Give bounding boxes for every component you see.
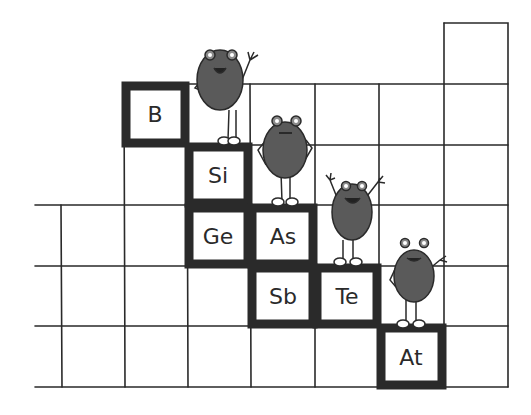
svg-text:Si: Si	[208, 163, 228, 188]
svg-text:B: B	[147, 102, 162, 127]
periodic-table-illustration: B Si Ge As Sb Te At	[0, 0, 531, 415]
svg-text:Sb: Sb	[269, 284, 297, 309]
element-sb: Sb	[252, 268, 313, 324]
element-b: B	[126, 86, 185, 143]
svg-text:At: At	[399, 345, 423, 370]
element-as: As	[252, 208, 313, 264]
element-te: Te	[317, 268, 377, 324]
element-si: Si	[189, 147, 248, 203]
element-at: At	[381, 328, 442, 385]
element-ge: Ge	[189, 208, 248, 264]
creature-waving-right-icon	[390, 239, 447, 329]
svg-text:Ge: Ge	[203, 224, 234, 249]
creature-cheering-icon	[326, 173, 385, 266]
svg-text:As: As	[270, 224, 297, 249]
creature-hands-on-hips-icon	[258, 116, 312, 206]
creature-waving-icon	[195, 50, 258, 145]
svg-text:Te: Te	[334, 284, 358, 309]
